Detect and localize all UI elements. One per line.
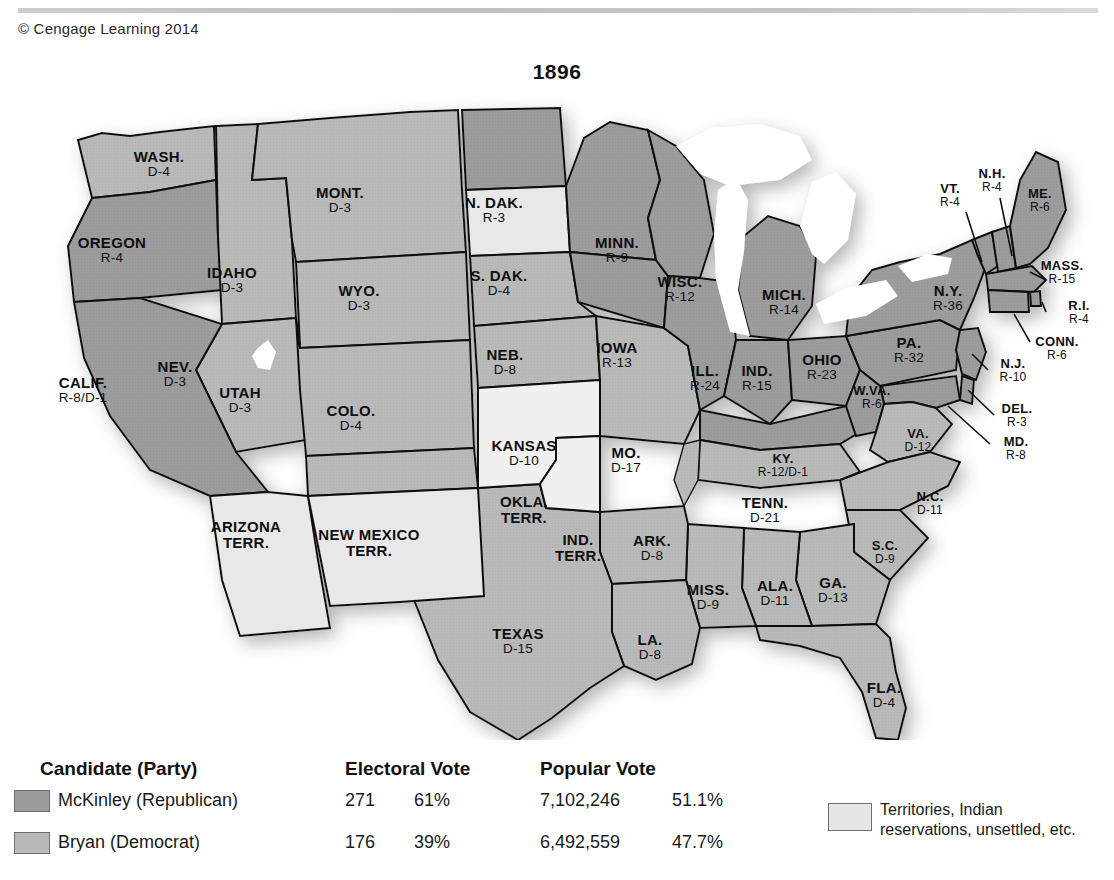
legend-electoral-democrat: 176 (345, 832, 375, 853)
legend-territory-note-line1: Territories, Indian (880, 801, 1003, 818)
legend-electoral-pct-democrat: 39% (414, 832, 450, 853)
copyright-notice: © Cengage Learning 2014 (18, 20, 199, 37)
state-north-dakota (462, 108, 566, 190)
map-legend: Candidate (Party) Electoral Vote Popular… (0, 748, 1114, 880)
top-divider-rule (18, 8, 1098, 13)
state-oregon (68, 180, 222, 302)
legend-territory-note: Territories, Indian reservations, unsett… (880, 800, 1076, 840)
state-rhode-island (1030, 291, 1041, 306)
legend-swatch-democrat (14, 832, 50, 854)
legend-popular-democrat: 6,492,559 (540, 832, 620, 853)
state-arkansas (600, 506, 688, 584)
legend-popular-pct-republican: 51.1% (672, 790, 723, 811)
legend-popular-pct-democrat: 47.7% (672, 832, 723, 853)
territory-new-mexico (308, 488, 484, 606)
legend-candidate-republican: McKinley (Republican) (58, 790, 238, 811)
legend-header-electoral: Electoral Vote (345, 758, 470, 780)
legend-candidate-democrat: Bryan (Democrat) (58, 832, 200, 853)
legend-electoral-republican: 271 (345, 790, 375, 811)
legend-header-candidate: Candidate (Party) (40, 758, 197, 780)
state-virginia (870, 402, 952, 462)
state-minnesota (566, 122, 660, 260)
state-connecticut (988, 290, 1029, 312)
state-missouri-bootheel (674, 440, 700, 506)
us-map-svg (0, 40, 1114, 740)
legend-electoral-pct-republican: 61% (414, 790, 450, 811)
state-massachusetts (986, 266, 1046, 292)
legend-header-popular: Popular Vote (540, 758, 656, 780)
legend-swatch-republican (14, 790, 50, 812)
state-louisiana (612, 580, 700, 680)
map-body (68, 108, 1066, 740)
state-maine (1010, 152, 1066, 268)
legend-territory-note-line2: reservations, unsettled, etc. (880, 821, 1076, 838)
state-indiana (724, 340, 792, 424)
state-delaware (960, 376, 974, 404)
map-container: WASH. D-4 OREGON R-4 IDAHO D-3 MONT. D-3… (0, 40, 1114, 740)
legend-swatch-territory (828, 803, 872, 831)
state-kansas (474, 316, 600, 388)
state-north-carolina (840, 452, 960, 510)
state-south-dakota (466, 186, 570, 256)
legend-popular-republican: 7,102,246 (540, 790, 620, 811)
election-map-page: © Cengage Learning 2014 1896 (0, 0, 1114, 880)
state-new-jersey (956, 328, 986, 380)
state-florida (756, 624, 906, 740)
state-wyoming (296, 252, 470, 348)
